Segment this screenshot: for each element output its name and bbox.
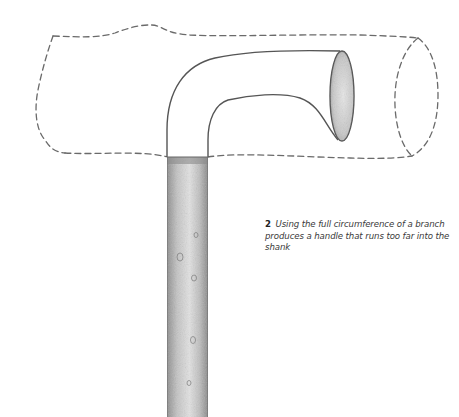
figure-number: 2	[265, 219, 271, 229]
textured-shank	[167, 157, 208, 417]
figure-caption: 2 Using the full circumference of a bran…	[265, 219, 459, 254]
figure-caption-text: Using the full circumference of a branch…	[265, 219, 449, 252]
walking-stick-illustration	[0, 0, 459, 417]
curved-handle	[167, 51, 340, 157]
